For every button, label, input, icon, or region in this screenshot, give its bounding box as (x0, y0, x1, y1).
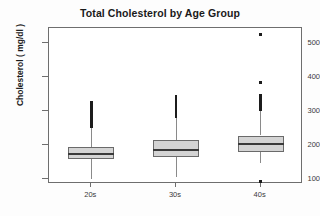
x-tick-mark (175, 183, 176, 187)
outlier-point (90, 106, 93, 109)
median-line (153, 149, 199, 151)
outlier-point (259, 33, 262, 36)
median-line (68, 153, 114, 155)
x-tick-label-20s: 20s (70, 190, 110, 199)
x-tick-label-40s: 40s (240, 190, 280, 199)
outlier-point (90, 101, 93, 104)
outlier-point (90, 108, 93, 111)
x-tick-label-30s: 30s (155, 190, 195, 199)
chart-page: Total Cholesterol by Age Group Cholester… (0, 0, 320, 216)
lower-whisker (91, 159, 92, 179)
x-tick-mark (260, 183, 261, 187)
median-line (238, 143, 284, 145)
upper-whisker (176, 118, 177, 140)
plot-area (48, 27, 302, 183)
y-axis-label: Cholesterol ( mg/dl ) (15, 5, 25, 125)
upper-whisker (91, 128, 92, 147)
chart-title: Total Cholesterol by Age Group (0, 7, 320, 19)
box-plot-20s (68, 28, 114, 184)
box-plot-40s (238, 28, 284, 184)
outlier-point (259, 81, 262, 84)
upper-whisker (260, 111, 261, 135)
x-tick-mark (90, 183, 91, 187)
lower-whisker (260, 152, 261, 162)
outlier-point (259, 94, 262, 97)
outlier-point (175, 95, 178, 98)
box-plot-30s (153, 28, 199, 184)
lower-whisker (176, 157, 177, 177)
